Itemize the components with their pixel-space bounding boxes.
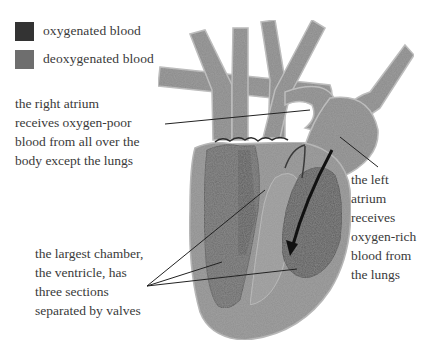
label-line: blood from — [351, 246, 416, 265]
label-line: the left — [351, 170, 416, 189]
deoxygenated-swatch-icon — [15, 50, 34, 69]
legend: oxygenated blood deoxygenated blood — [15, 18, 154, 74]
legend-item-deoxygenated: deoxygenated blood — [15, 46, 154, 72]
label-line: atrium — [351, 189, 416, 208]
right-atrium-label: the right atrium receives oxygen-poor bl… — [15, 94, 139, 170]
legend-label: oxygenated blood — [43, 23, 141, 39]
legend-item-oxygenated: oxygenated blood — [15, 18, 154, 44]
label-line: blood from all over the — [15, 132, 139, 151]
label-line: the largest chamber, — [35, 244, 143, 263]
legend-label: deoxygenated blood — [43, 51, 154, 67]
label-line: receives — [351, 208, 416, 227]
label-line: body except the lungs — [15, 151, 139, 170]
label-line: receives oxygen-poor — [15, 113, 139, 132]
left-atrium-label: the left atrium receives oxygen-rich blo… — [351, 170, 416, 284]
label-line: separated by valves — [35, 301, 143, 320]
ventricle-label: the largest chamber, the ventricle, has … — [35, 244, 143, 320]
label-line: the ventricle, has — [35, 263, 143, 282]
label-line: the right atrium — [15, 94, 139, 113]
label-line: three sections — [35, 282, 143, 301]
oxygenated-swatch-icon — [15, 22, 34, 41]
label-line: oxygen-rich — [351, 227, 416, 246]
label-line: the lungs — [351, 265, 416, 284]
